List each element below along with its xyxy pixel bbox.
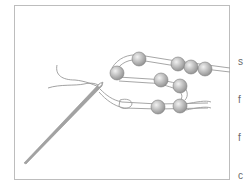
bead xyxy=(171,57,185,71)
beads xyxy=(110,52,212,114)
bead xyxy=(173,79,187,93)
bead xyxy=(198,62,212,76)
text-line: f xyxy=(238,94,247,107)
bead xyxy=(184,60,198,74)
cropped-side-text: s f f c s f r c l c i t xyxy=(238,6,247,193)
text-line: s xyxy=(238,56,247,69)
bead xyxy=(110,66,124,80)
bead xyxy=(151,100,165,114)
bead xyxy=(154,73,168,87)
thread-ends xyxy=(48,65,100,88)
needle-icon xyxy=(24,82,103,164)
text-line: f xyxy=(238,132,247,145)
bead xyxy=(132,52,146,66)
text-line: c xyxy=(238,170,247,183)
beading-illustration xyxy=(0,0,247,193)
bead xyxy=(173,99,187,113)
